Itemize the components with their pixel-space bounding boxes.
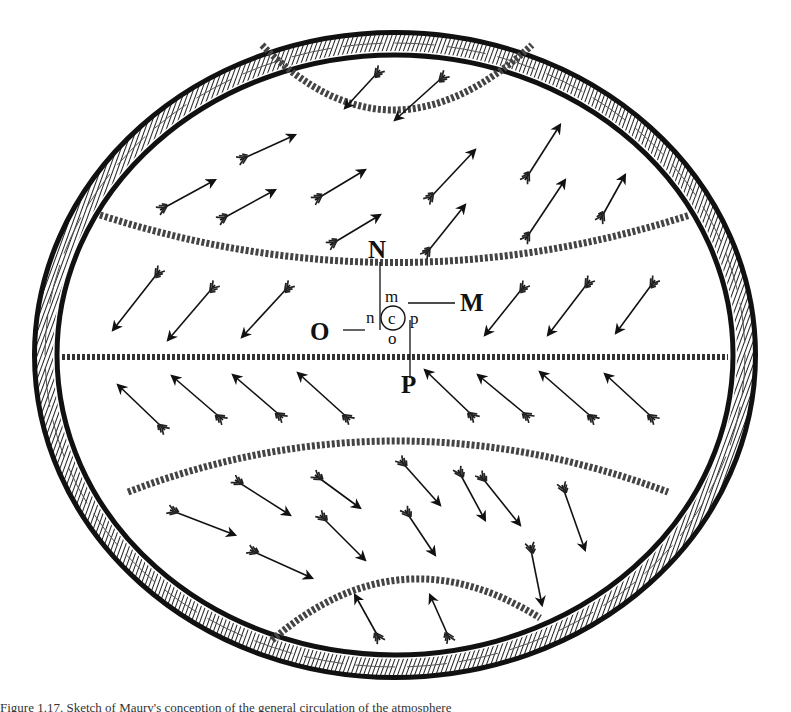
label-p: p xyxy=(410,309,419,328)
label-n: n xyxy=(366,308,375,327)
label-O: O xyxy=(310,318,329,345)
label-m: m xyxy=(385,287,398,306)
label-o: o xyxy=(388,329,397,348)
label-N: N xyxy=(368,236,386,263)
label-M: M xyxy=(460,289,484,316)
south-polar-arc xyxy=(272,579,540,640)
south-band xyxy=(128,441,668,492)
center-construction xyxy=(343,262,455,378)
figure-caption: Figure 1.17. Sketch of Maury's conceptio… xyxy=(0,700,791,712)
atmospheric-circulation-diagram: N M O P m n c p o xyxy=(0,0,791,712)
north-band xyxy=(100,215,690,263)
label-P: P xyxy=(401,371,416,398)
label-c: c xyxy=(388,309,396,328)
